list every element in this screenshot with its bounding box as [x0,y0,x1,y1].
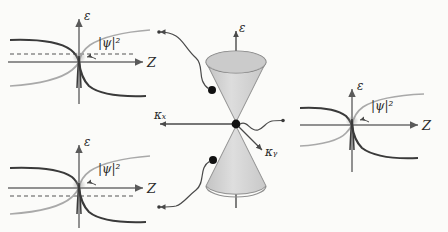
upper-band-dark-left-right [300,108,352,125]
connector-upper-left-endpoint [157,30,161,34]
upper-band-dark-left-top [10,40,79,62]
band-diagram-right: |ψ|² ε Z [300,79,432,172]
upper-state-dot [208,86,216,94]
upper-band-dark-left-bottom [10,168,79,188]
psi-label-bottom-left: |ψ|² [98,162,120,176]
connector-lower-left [160,161,210,207]
lower-band-dark-right-right [352,125,418,158]
lower-band-light-left-right [300,125,352,146]
lower-band-dark-right-bottom [79,188,146,222]
psi-pointer-top-left [87,57,96,59]
band-diagram-top-left: |ψ|² ε Z [8,9,157,104]
cone-energy-label: ε [239,21,245,35]
conduction-cone-rim-inner [206,51,266,73]
energy-label-bottom-left: ε [84,135,90,149]
psi-label-top-left: |ψ|² [98,36,120,50]
connector-lower-left-endpoint [157,205,161,209]
dirac-cone: ε κₓ κᵧ [153,21,278,208]
connector-upper-left [160,32,209,89]
energy-label-top-left: ε [84,9,90,23]
dirac-point-dot [232,120,241,129]
z-label-bottom-left: Z [146,181,157,196]
z-label-top-left: Z [146,55,157,70]
connector-right-endpoint [281,119,285,123]
energy-label-right: ε [357,79,363,93]
psi-pointer-right [360,120,369,122]
z-label-right: Z [421,118,432,133]
lower-state-dot [209,156,217,164]
ky-label: κᵧ [264,145,278,159]
lower-band-dark-right-top [79,62,146,96]
band-diagram-bottom-left: |ψ|² ε Z [8,135,157,228]
lower-band-light-left-bottom [10,188,79,214]
kx-label: κₓ [153,108,167,122]
connector-right [240,121,282,131]
psi-pointer-bottom-left [87,183,96,185]
figure-root: |ψ|² ε Z |ψ|² ε Z ε κₓ [0,0,448,232]
lower-band-light-left-top [10,62,79,86]
psi-label-right: |ψ|² [371,99,393,113]
